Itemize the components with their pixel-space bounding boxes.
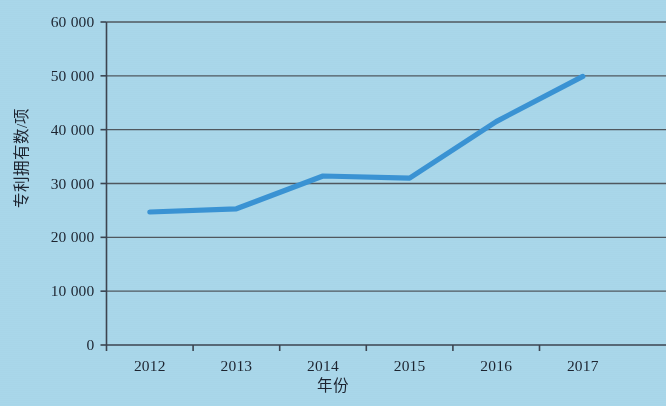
y-axis-tick-label: 0 <box>87 337 95 353</box>
patent-count-series-line <box>150 76 583 212</box>
patent-count-line-chart: 010 00020 00030 00040 00050 00060 000 20… <box>0 0 666 406</box>
x-axis-tick-label: 2015 <box>370 358 450 374</box>
x-axis-tick-label: 2016 <box>456 358 536 374</box>
y-axis-ticks <box>101 22 107 345</box>
x-axis-tick-label: 2012 <box>110 358 190 374</box>
x-axis-title: 年份 <box>0 378 666 394</box>
x-axis-tick-label: 2014 <box>283 358 363 374</box>
y-axis-tick-label: 10 000 <box>51 283 95 299</box>
y-axis-title: 专利拥有数/项 <box>14 58 30 258</box>
chart-plot-area <box>0 0 666 406</box>
x-axis-tick-label: 2013 <box>196 358 276 374</box>
x-axis-tick-label: 2017 <box>543 358 623 374</box>
x-axis-ticks <box>107 345 540 351</box>
y-axis-tick-label: 30 000 <box>51 176 95 192</box>
y-axis-tick-label: 60 000 <box>51 14 95 30</box>
y-axis-tick-label: 50 000 <box>51 68 95 84</box>
y-axis-tick-label: 20 000 <box>51 229 95 245</box>
y-axis-tick-label: 40 000 <box>51 122 95 138</box>
gridlines-group <box>107 22 666 291</box>
